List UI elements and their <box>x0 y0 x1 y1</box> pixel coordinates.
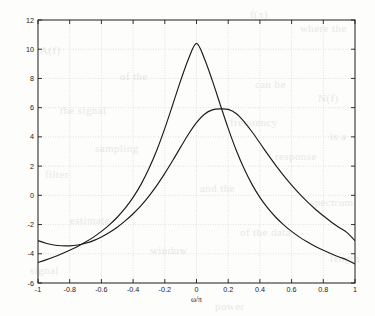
x-tick-label: -1 <box>35 285 41 294</box>
x-tick-label: -0.4 <box>127 285 139 294</box>
y-tick-label: -6 <box>28 279 34 288</box>
spectrum-plot: -1-0.8-0.6-0.4-0.200.20.40.60.81-6-4-202… <box>0 0 375 316</box>
x-tick-label: 0.2 <box>223 285 233 294</box>
x-tick-label: 1 <box>353 285 357 294</box>
y-tick-label: 2 <box>30 162 34 171</box>
y-tick-label: 10 <box>26 45 34 54</box>
data-curves <box>38 43 355 264</box>
y-tick-label: -4 <box>28 249 34 258</box>
x-tick-label: 0.6 <box>287 285 297 294</box>
y-tick-label: 6 <box>30 103 34 112</box>
curve-series-0 <box>38 43 355 264</box>
x-tick-label: 0.8 <box>318 285 328 294</box>
x-tick-label: 0.4 <box>255 285 265 294</box>
x-tick-label: 0 <box>195 285 199 294</box>
y-tick-label: -2 <box>28 220 34 229</box>
x-tick-label: -0.2 <box>159 285 171 294</box>
x-axis-label: ω/π <box>191 295 202 304</box>
y-tick-label: 0 <box>30 191 34 200</box>
y-tick-label: 12 <box>26 16 34 25</box>
x-tick-label: -0.6 <box>95 285 107 294</box>
x-tick-label: -0.8 <box>64 285 76 294</box>
y-tick-label: 8 <box>30 74 34 83</box>
tick-labels: -1-0.8-0.6-0.4-0.200.20.40.60.81-6-4-202… <box>26 16 357 294</box>
y-tick-label: 4 <box>30 132 34 141</box>
figure-canvas: f(x)where theA(f)of thecan beN(f)the sig… <box>0 0 375 316</box>
